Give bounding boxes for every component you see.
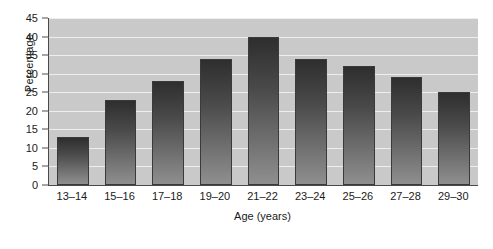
bar[interactable] (200, 59, 231, 185)
bar[interactable] (438, 92, 469, 185)
x-tick-label: 21–22 (239, 190, 287, 208)
y-tick-label: 0 (32, 179, 38, 191)
x-tick-label: 29–30 (429, 190, 477, 208)
y-tick-label: 45 (26, 12, 38, 24)
y-tick-label: 35 (26, 49, 38, 61)
bar-slot (49, 18, 97, 185)
x-tick-label: 13–14 (48, 190, 96, 208)
bar-slot (192, 18, 240, 185)
x-tick-label: 23–24 (286, 190, 334, 208)
bar-slot (430, 18, 478, 185)
bar-slot (383, 18, 431, 185)
bar-chart: Percentage 051015202530354045 13–1415–16… (0, 0, 493, 249)
bar[interactable] (152, 81, 183, 185)
x-tick-label: 27–28 (382, 190, 430, 208)
y-tick-label: 5 (32, 160, 38, 172)
plot-area (48, 18, 478, 186)
y-tick-label: 10 (26, 142, 38, 154)
y-tick-label: 25 (26, 86, 38, 98)
bar[interactable] (391, 77, 422, 185)
bar[interactable] (105, 100, 136, 185)
bar[interactable] (57, 137, 88, 185)
bar-series (49, 18, 478, 185)
y-axis-ticks: 051015202530354045 (0, 0, 48, 249)
x-tick-label: 25–26 (334, 190, 382, 208)
bar-slot (240, 18, 288, 185)
bar[interactable] (343, 66, 374, 185)
y-tick-label: 40 (26, 31, 38, 43)
x-tick-label: 17–18 (143, 190, 191, 208)
bar-slot (144, 18, 192, 185)
bar-slot (335, 18, 383, 185)
bar[interactable] (295, 59, 326, 185)
x-axis-ticks: 13–1415–1617–1819–2021–2223–2425–2627–28… (48, 190, 477, 208)
bar-slot (97, 18, 145, 185)
bar[interactable] (248, 37, 279, 185)
x-axis-title: Age (years) (48, 210, 477, 222)
x-tick-label: 15–16 (96, 190, 144, 208)
bar-slot (287, 18, 335, 185)
y-tick-label: 15 (26, 123, 38, 135)
y-tick-label: 20 (26, 105, 38, 117)
x-tick-label: 19–20 (191, 190, 239, 208)
y-tick-label: 30 (26, 68, 38, 80)
